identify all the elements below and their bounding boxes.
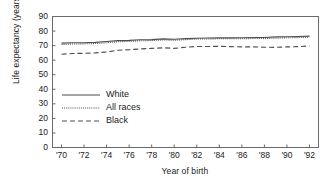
x-axis-tick-labels: '70'72'74'76'78'80'82'84'86'88'90'92 (0, 0, 335, 189)
chart-figure: Life expectancy (years) 0102030405060708… (0, 0, 335, 189)
x-tick-label: '72 (72, 151, 96, 160)
x-tick-label: '74 (95, 151, 119, 160)
x-tick-label: '82 (185, 151, 209, 160)
x-tick-label: '90 (275, 151, 299, 160)
legend-label-white: White (106, 90, 129, 99)
x-tick-label: '86 (230, 151, 254, 160)
x-tick-label: '84 (207, 151, 231, 160)
x-axis-label: Year of birth (52, 166, 318, 176)
legend-label-all-races: All races (106, 103, 141, 112)
x-tick-label: '76 (117, 151, 141, 160)
x-tick-label: '70 (50, 151, 74, 160)
x-tick-label: '78 (140, 151, 164, 160)
x-tick-label: '88 (252, 151, 276, 160)
x-tick-label: '80 (162, 151, 186, 160)
legend-label-black: Black (106, 116, 128, 125)
x-tick-label: '92 (297, 151, 321, 160)
